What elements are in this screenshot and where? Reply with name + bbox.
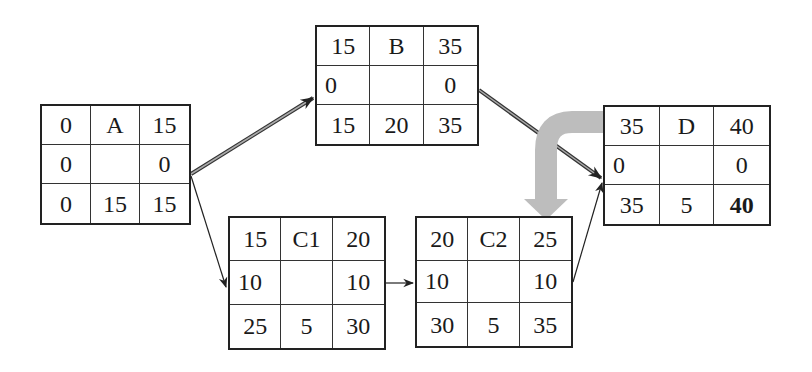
early-finish: 35 (424, 27, 477, 66)
activity-name: D (660, 107, 715, 146)
node-d: 35 D 40 0 0 35 5 40 (603, 105, 771, 226)
duration: 5 (468, 303, 519, 346)
late-finish: 35 (520, 303, 571, 346)
early-start: 15 (230, 218, 281, 261)
early-finish: 25 (520, 218, 571, 261)
early-finish: 20 (333, 218, 384, 261)
late-start: 0 (42, 184, 91, 223)
slack-left: 0 (605, 146, 660, 185)
empty-cell (91, 145, 140, 184)
slack-left: 0 (317, 66, 370, 105)
duration: 15 (91, 184, 140, 223)
slack-right: 10 (520, 261, 571, 304)
slack-left: 0 (42, 145, 91, 184)
empty-cell (370, 66, 423, 105)
empty-cell (660, 146, 715, 185)
slack-left: 10 (417, 261, 468, 304)
early-start: 35 (605, 107, 660, 146)
duration: 20 (370, 105, 423, 144)
early-start: 15 (317, 27, 370, 66)
duration: 5 (281, 305, 332, 348)
late-start: 15 (317, 105, 370, 144)
late-finish: 15 (140, 184, 189, 223)
node-b: 15 B 35 0 0 15 20 35 (315, 25, 479, 146)
activity-name: C1 (281, 218, 332, 261)
early-finish: 40 (714, 107, 769, 146)
late-start: 30 (417, 303, 468, 346)
slack-right: 0 (424, 66, 477, 105)
slack-left: 10 (230, 261, 281, 304)
late-finish: 40 (714, 185, 769, 224)
slack-right: 0 (140, 145, 189, 184)
node-a: 0 A 15 0 0 0 15 15 (40, 104, 191, 225)
duration: 5 (660, 185, 715, 224)
empty-cell (281, 261, 332, 304)
early-finish: 15 (140, 106, 189, 145)
edge-a-c1 (191, 176, 226, 287)
slack-right: 0 (714, 146, 769, 185)
activity-name: C2 (468, 218, 519, 261)
edge-c2-d (573, 183, 602, 282)
edge-a-b (191, 98, 313, 174)
late-start: 35 (605, 185, 660, 224)
empty-cell (468, 261, 519, 304)
activity-name: B (370, 27, 423, 66)
node-c1: 15 C1 20 10 10 25 5 30 (228, 216, 386, 350)
late-finish: 35 (424, 105, 477, 144)
late-start: 25 (230, 305, 281, 348)
annotation-arrow-icon (524, 122, 610, 220)
slack-right: 10 (333, 261, 384, 304)
activity-name: A (91, 106, 140, 145)
early-start: 20 (417, 218, 468, 261)
early-start: 0 (42, 106, 91, 145)
node-c2: 20 C2 25 10 10 30 5 35 (415, 216, 573, 348)
late-finish: 30 (333, 305, 384, 348)
